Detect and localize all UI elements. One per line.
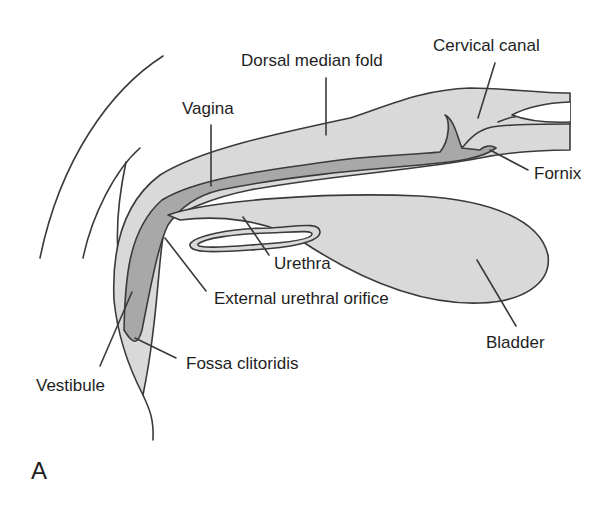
label-urethra: Urethra bbox=[274, 255, 331, 272]
label-bladder: Bladder bbox=[486, 334, 545, 351]
label-cervical-canal: Cervical canal bbox=[433, 37, 540, 54]
label-external-urethral-orifice: External urethral orifice bbox=[214, 290, 389, 307]
vestibule-tail bbox=[143, 395, 153, 440]
anatomy-diagram: Dorsal median fold Cervical canal Vagina… bbox=[0, 0, 615, 514]
panel-letter: A bbox=[31, 459, 47, 483]
label-vagina: Vagina bbox=[182, 100, 234, 117]
label-vestibule: Vestibule bbox=[36, 377, 105, 394]
label-fornix: Fornix bbox=[534, 165, 581, 182]
label-fossa-clitoridis: Fossa clitoridis bbox=[186, 355, 298, 372]
label-dorsal-median-fold: Dorsal median fold bbox=[241, 52, 383, 69]
